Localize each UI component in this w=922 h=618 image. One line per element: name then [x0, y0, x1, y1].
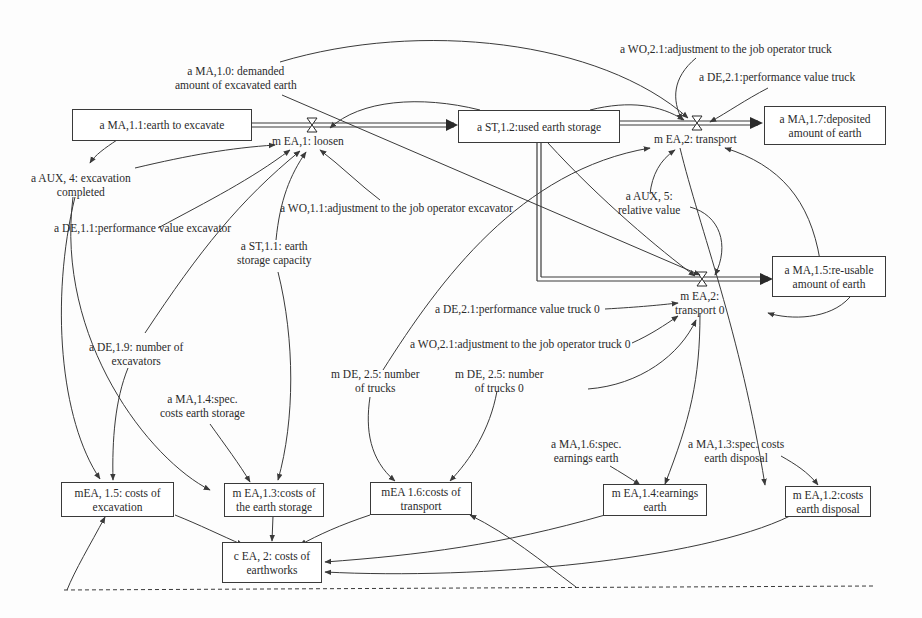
link-reusable-to-transport0 [768, 297, 850, 317]
aux-perf-truck0[interactable]: a DE,2.1:performance value truck 0 [435, 302, 600, 316]
stock-reusable-amount[interactable]: a MA,1.5:re-usable amount of earth [772, 256, 886, 297]
valve-loosen-icon [307, 118, 317, 132]
link-external-to-costexc [67, 517, 105, 590]
link-reusable-to-transport [725, 148, 820, 260]
link-wotruck0-to-transport0 [632, 316, 678, 343]
node-earnings-earth[interactable]: m EA,1.4:earnings earth [603, 484, 707, 516]
link-earnings-to-total [325, 515, 605, 562]
flow-loosen-label[interactable]: m EA,1: loosen [272, 134, 344, 148]
node-costs-storage[interactable]: m EA,1.3:costs of the earth storage [224, 483, 324, 517]
aux-spec-costs-disposal[interactable]: a MA,1.3:spec. costs earth disposal [688, 437, 784, 465]
aux-excavation-completed[interactable]: a AUX, 4: excavation completed [31, 171, 131, 199]
link-specdisp-to-disposal [781, 456, 818, 485]
link-numexc-to-costexc [113, 368, 128, 480]
stock-deposited-amount[interactable]: a MA,1.7:deposited amount of earth [764, 106, 886, 145]
link-perfexc-to-loosen [158, 150, 290, 228]
aux-relative-value[interactable]: a AUX, 5: relative value [618, 189, 680, 217]
flow-transport0-label[interactable]: m EA,2: transport 0 [675, 289, 725, 317]
link-coststorage-to-total [272, 516, 273, 541]
stock-used-earth-storage[interactable]: a ST,1.2:used earth storage [458, 110, 620, 143]
node-costs-earthworks[interactable]: c EA, 2: costs of earthworks [222, 542, 322, 583]
link-aux4-to-costexc [61, 197, 100, 479]
link-capacity-to-coststorage [278, 272, 291, 480]
aux-earth-storage-capacity[interactable]: a ST,1.1: earth storage capacity [237, 239, 311, 267]
boundary-dashed-line [64, 586, 873, 590]
link-costtransport-to-total [300, 515, 370, 545]
aux-demanded-amount[interactable]: a MA,1.0: demanded amount of excavated e… [175, 64, 297, 92]
flow-pipe-transport [619, 117, 763, 129]
link-trucks0-to-transport0 [588, 320, 696, 389]
link-external-to-costtransport [470, 515, 576, 587]
link-costexc-to-total [175, 515, 243, 545]
aux-wo-truck[interactable]: a WO,2.1:adjustment to the job operator … [620, 42, 832, 56]
link-disposal-to-total [325, 516, 790, 574]
aux-number-excavators[interactable]: a DE,1.9: number of excavators [89, 340, 183, 368]
node-costs-excavation[interactable]: mEA, 1.5: costs of excavation [61, 482, 174, 517]
link-speccost-to-coststorage [210, 424, 250, 482]
link-perftruck-to-transport [710, 88, 768, 122]
aux-spec-costs-storage[interactable]: a MA,1.4:spec. costs earth storage [160, 392, 245, 420]
link-wo-exc-to-loosen [320, 150, 380, 200]
link-aux5-to-transport [650, 150, 675, 194]
aux-perf-truck[interactable]: a DE,2.1:performance value truck [699, 70, 855, 84]
aux-wo-truck0[interactable]: a WO,2.1:adjustment to the job operator … [410, 337, 630, 351]
link-trucks0-to-costtransport [450, 391, 497, 481]
flow-pipe-loosen [251, 119, 458, 131]
aux-number-trucks0[interactable]: m DE, 2.5: number of trucks 0 [455, 367, 543, 395]
node-costs-disposal[interactable]: m EA,1.2:costs earth disposal [785, 486, 871, 517]
aux-wo-excavator[interactable]: a WO,1.1:adjustment to the job operator … [280, 201, 513, 215]
link-aux4-to-loosen [135, 145, 275, 168]
aux-perf-excavator[interactable]: a DE,1.1:performance value excavator [54, 221, 231, 235]
stock-flow-diagram: a MA,1.1:earth to excavate a ST,1.2:used… [0, 0, 922, 618]
link-specearn-to-earnings [610, 466, 640, 485]
node-costs-transport[interactable]: mEA 1.6:costs of transport [370, 482, 472, 515]
aux-spec-earnings[interactable]: a MA,1.6:spec. earnings earth [551, 437, 621, 465]
link-capacity-to-loosen [276, 152, 306, 240]
link-earth-to-aux4 [90, 140, 117, 163]
valve-transport-icon [692, 116, 702, 130]
flow-transport-label[interactable]: m EA,2: transport [654, 132, 737, 146]
link-perftruck0-to-transport0 [605, 303, 678, 309]
stock-earth-to-excavate[interactable]: a MA,1.1:earth to excavate [72, 109, 252, 141]
aux-number-trucks[interactable]: m DE, 2.5: number of trucks [331, 367, 419, 395]
link-trucks-to-costtransport [368, 397, 395, 481]
